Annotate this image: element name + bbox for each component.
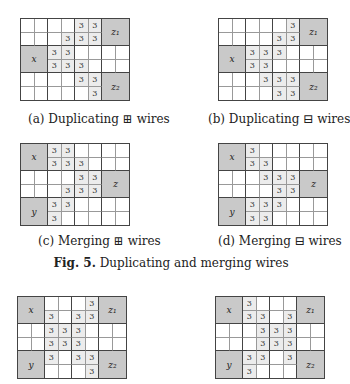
grid-cell: 3	[284, 324, 298, 338]
grid-cell	[260, 19, 274, 33]
grid-cell	[102, 144, 116, 158]
grid-cell	[233, 171, 247, 185]
grid-cell: 3	[72, 324, 86, 338]
grid-cell	[21, 33, 35, 47]
grid-cell: 3	[246, 144, 260, 158]
grid-cell: 3	[45, 338, 59, 352]
grid-cell	[270, 297, 284, 311]
grid-cell	[113, 338, 127, 352]
grid-cell: 3	[75, 73, 89, 87]
gate-block: x	[21, 144, 48, 171]
grid-cell	[216, 324, 230, 338]
grid-cell	[314, 212, 328, 226]
gate-block: x	[18, 297, 45, 324]
grid-cell	[246, 33, 260, 47]
grid-cell	[260, 87, 274, 101]
grid-cell	[62, 171, 76, 185]
grid-cell	[246, 19, 260, 33]
grid-cell: 3	[287, 73, 301, 87]
grid-cell	[113, 324, 127, 338]
grid-cell: 3	[260, 60, 274, 74]
grid-cell	[32, 324, 46, 338]
grid-cell	[75, 212, 89, 226]
gate-block: z₂	[300, 73, 327, 100]
grid-cell: 3	[62, 33, 76, 47]
grid-cell: 3	[270, 324, 284, 338]
gate-block: z₂	[297, 351, 324, 378]
grid-cell: 3	[246, 60, 260, 74]
grid-cell: 3	[287, 87, 301, 101]
grid-cell	[273, 144, 287, 158]
gate-block: z₂	[99, 351, 126, 378]
grid-cell: 3	[75, 158, 89, 172]
grid-cell: 3	[273, 73, 287, 87]
grid-cell	[233, 185, 247, 199]
grid-cell: 3	[257, 311, 271, 325]
grid-cell	[314, 46, 328, 60]
grid-cell	[260, 33, 274, 47]
grid-cell: 3	[246, 212, 260, 226]
grid-cell	[35, 73, 49, 87]
gate-block: y	[216, 351, 243, 378]
grid-cell	[230, 338, 244, 352]
grid-cell	[72, 297, 86, 311]
grid-cell	[219, 19, 233, 33]
grid-cell	[48, 171, 62, 185]
grid-cell	[273, 212, 287, 226]
grid-cell	[297, 324, 311, 338]
grid-cell: 3	[86, 351, 100, 365]
grid-cell: 3	[287, 171, 301, 185]
grid-cell: 3	[45, 324, 59, 338]
grid-b: z₁xz₂3333333333333	[218, 18, 328, 101]
grid-cell: 3	[45, 351, 59, 365]
grid-cell	[219, 73, 233, 87]
grid-cell: 3	[62, 198, 76, 212]
grid-f: xz₁yz₂33333333333333	[215, 296, 325, 379]
grid-cell	[260, 144, 274, 158]
gate-block: x	[219, 46, 246, 73]
grid-cell: 3	[89, 33, 103, 47]
grid-cell	[300, 46, 314, 60]
gate-block: x	[21, 46, 48, 73]
grid-cell	[102, 158, 116, 172]
grid-cell	[233, 73, 247, 87]
grid-cell	[219, 33, 233, 47]
grid-cell	[35, 19, 49, 33]
grid-cell: 3	[284, 351, 298, 365]
grid-cell	[300, 60, 314, 74]
gate-block: x	[216, 297, 243, 324]
gate-block: z	[300, 171, 327, 198]
grid-cell: 3	[270, 338, 284, 352]
grid-cell	[270, 351, 284, 365]
grid-cell	[243, 338, 257, 352]
grid-cell	[219, 171, 233, 185]
grid-cell: 3	[284, 338, 298, 352]
grid-cell	[257, 297, 271, 311]
grid-cell	[219, 87, 233, 101]
grid-cell	[219, 185, 233, 199]
grid-cell: 3	[75, 19, 89, 33]
grid-cell	[48, 73, 62, 87]
grid-cell: 3	[89, 87, 103, 101]
gate-block: z₁	[99, 297, 126, 324]
figure-caption: Fig. 5. Duplicating and merging wires	[0, 256, 342, 270]
grid-cell	[233, 87, 247, 101]
grid-cell: 3	[75, 60, 89, 74]
grid-cell	[86, 324, 100, 338]
grid-cell	[35, 171, 49, 185]
grid-cell	[89, 60, 103, 74]
grid-cell: 3	[75, 33, 89, 47]
grid-cell	[62, 87, 76, 101]
subfigure-caption-b: (b) Duplicating ⊟ wires	[208, 112, 350, 126]
figure-label: Fig. 5.	[53, 256, 95, 270]
grid-cell: 3	[72, 338, 86, 352]
grid-cell	[48, 185, 62, 199]
grid-cell: 3	[243, 365, 257, 379]
gate-block: z₁	[300, 19, 327, 46]
grid-cell	[297, 338, 311, 352]
grid-cell: 3	[260, 158, 274, 172]
subfigure-caption-c: (c) Merging ⊞ wires	[38, 234, 161, 248]
grid-cell: 3	[48, 46, 62, 60]
grid-cell	[62, 212, 76, 226]
grid-cell	[21, 185, 35, 199]
